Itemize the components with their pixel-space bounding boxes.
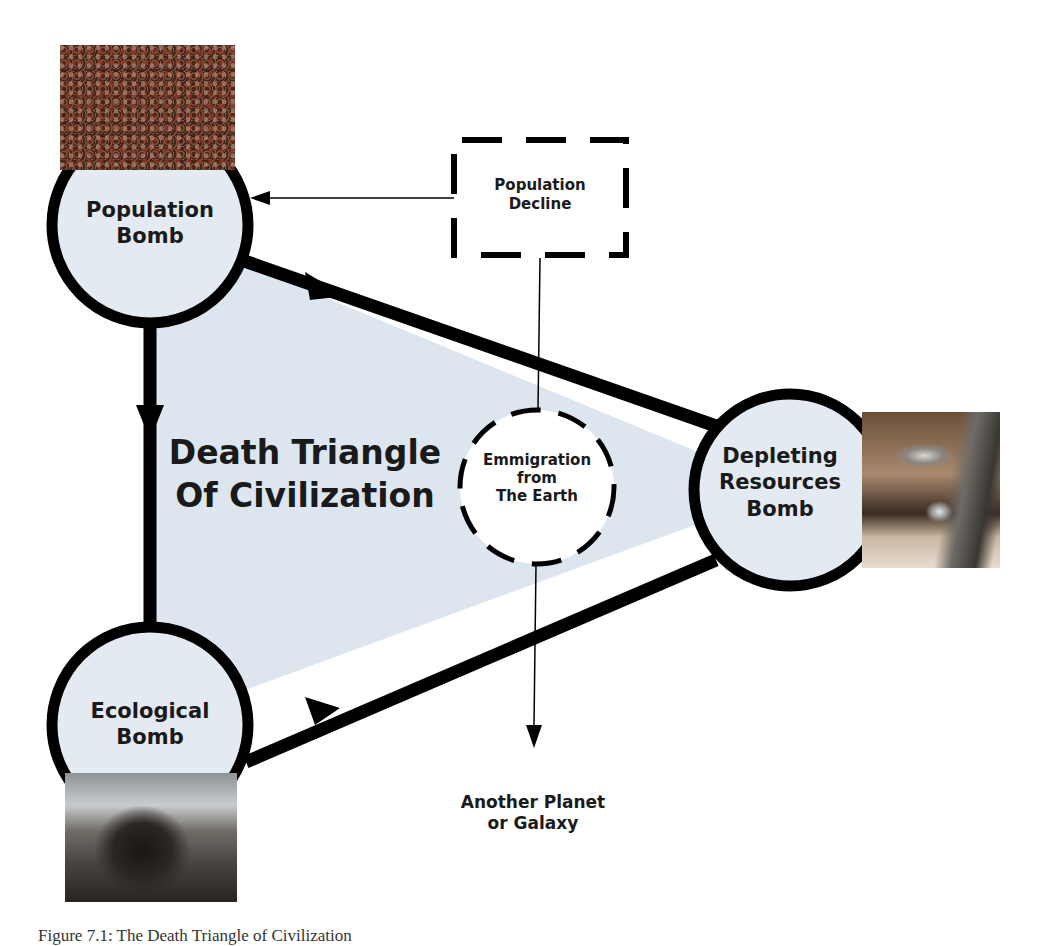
emigration-label: Emmigration from The Earth xyxy=(467,451,607,505)
population-bomb-label: Population Bomb xyxy=(60,197,240,250)
population-decline-label: Population Decline xyxy=(460,176,620,214)
dripping-faucet-photo xyxy=(862,412,1000,568)
figure-caption: Figure 7.1: The Death Triangle of Civili… xyxy=(38,926,352,946)
crowd-photo xyxy=(60,45,235,170)
edge-emigration-to-destination xyxy=(534,564,536,725)
arrowhead-population-to-resources xyxy=(305,272,345,300)
depleting-resources-bomb-label: Depleting Resources Bomb xyxy=(695,443,865,522)
arrowhead-decline-to-population xyxy=(250,191,270,205)
ecological-bomb-label: Ecological Bomb xyxy=(60,698,240,751)
destination-label: Another Planet or Galaxy xyxy=(433,792,633,835)
diagram-title: Death Triangle Of Civilization xyxy=(160,432,450,518)
oil-covered-bird-photo xyxy=(65,773,237,902)
arrowhead-emigration-to-destination xyxy=(526,725,542,748)
